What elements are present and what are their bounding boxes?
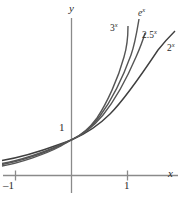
exponential-functions-figure: y x 1 –1 1 3x ex 2.5x 2x xyxy=(0,0,183,198)
curve-label-2point5x: 2.5x xyxy=(142,31,157,41)
x-tick-label-1: 1 xyxy=(124,180,130,191)
x-tick-label-neg1: –1 xyxy=(3,180,14,191)
curve-label-2point5x-base: 2.5 xyxy=(142,30,154,40)
x-axis-label: x xyxy=(168,168,173,179)
curve-label-2x: 2x xyxy=(167,44,175,54)
y-axis-label: y xyxy=(69,3,74,14)
y-tick-label-1: 1 xyxy=(59,122,65,133)
curve-label-ex: ex xyxy=(138,9,145,19)
curve-label-ex-exponent: x xyxy=(142,6,145,13)
curve-2-to-the-x xyxy=(2,31,175,161)
curve-label-3x: 3x xyxy=(110,24,118,34)
curve-label-2point5x-exponent: x xyxy=(154,28,157,35)
curve-label-3x-exponent: x xyxy=(115,21,118,28)
curve-label-2x-exponent: x xyxy=(172,41,175,48)
curve-3-to-the-x xyxy=(2,26,128,166)
